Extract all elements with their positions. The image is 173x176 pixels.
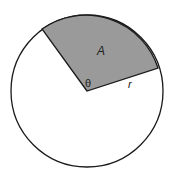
- area-label: A: [96, 44, 105, 58]
- angle-label: θ: [85, 77, 91, 89]
- circle-sector-diagram: A θ r: [0, 0, 173, 176]
